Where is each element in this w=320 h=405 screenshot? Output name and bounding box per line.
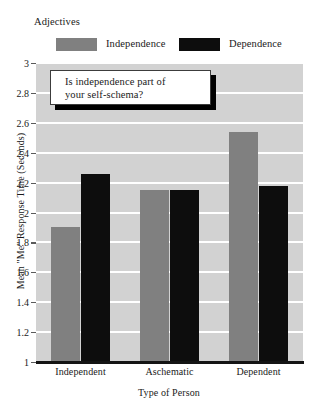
bar-chart-figure: Adjectives Independence Dependence Mean … [0, 0, 320, 405]
y-tick-mark [31, 123, 36, 124]
y-tick-mark [31, 63, 36, 64]
y-tick-mark [31, 242, 36, 243]
y-tick-mark [31, 332, 36, 333]
x-tick-label: Dependent [214, 366, 303, 378]
y-tick-mark [31, 302, 36, 303]
y-tick-mark [31, 272, 36, 273]
y-tick-mark [31, 362, 36, 363]
x-axis-title: Type of Person [34, 387, 304, 399]
y-tick-label: 2 [24, 207, 29, 218]
callout-line-2: your self-schema? [65, 88, 210, 101]
y-tick-label: 2.6 [17, 117, 30, 128]
callout-box: Is independence part of your self-schema… [50, 70, 211, 105]
y-tick-label: 1.8 [17, 237, 30, 248]
y-tick-mark [31, 153, 36, 154]
y-tick-label: 2.4 [17, 147, 30, 158]
callout-annotation: Is independence part of your self-schema… [50, 70, 211, 105]
callout-line-1: Is independence part of [65, 75, 210, 88]
x-tick-label: Aschematic [125, 366, 214, 378]
y-tick-label: 2.2 [17, 177, 30, 188]
y-tick-label: 1.2 [17, 327, 30, 338]
y-tick-mark [31, 213, 36, 214]
y-tick-label: 3 [24, 58, 29, 69]
y-tick-label: 1 [24, 357, 29, 368]
y-tick-label: 1.6 [17, 267, 30, 278]
x-tick-label: Independent [36, 366, 125, 378]
y-tick-mark [31, 93, 36, 94]
y-tick-label: 2.8 [17, 87, 30, 98]
axis-ticks: 32.82.62.42.221.81.61.41.21IndependentAs… [0, 0, 320, 405]
y-tick-label: 1.4 [17, 297, 30, 308]
y-tick-mark [31, 183, 36, 184]
